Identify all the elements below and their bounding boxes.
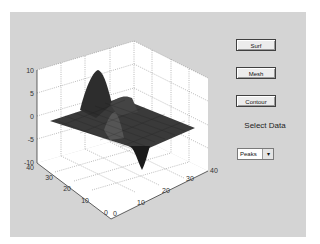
svg-text:0: 0 bbox=[30, 113, 34, 120]
svg-text:40: 40 bbox=[210, 167, 218, 174]
svg-text:40: 40 bbox=[26, 164, 34, 171]
surf-button[interactable]: Surf bbox=[236, 39, 276, 51]
svg-text:-5: -5 bbox=[28, 136, 34, 143]
select-data-label: Select Data bbox=[240, 121, 290, 130]
svg-text:10: 10 bbox=[81, 197, 89, 204]
chevron-down-icon[interactable]: ▾ bbox=[262, 149, 273, 159]
z-axis-ticks: 10 5 0 -5 -10 bbox=[24, 67, 34, 166]
svg-text:30: 30 bbox=[45, 174, 53, 181]
svg-text:10: 10 bbox=[137, 199, 145, 206]
svg-text:10: 10 bbox=[26, 67, 34, 74]
svg-text:0: 0 bbox=[104, 209, 108, 216]
svg-text:20: 20 bbox=[162, 187, 170, 194]
popup-selected-value: Peaks bbox=[240, 151, 257, 157]
contour-button[interactable]: Contour bbox=[236, 95, 276, 107]
svg-text:5: 5 bbox=[30, 90, 34, 97]
svg-text:0: 0 bbox=[113, 210, 117, 217]
svg-text:30: 30 bbox=[186, 175, 194, 182]
svg-text:20: 20 bbox=[63, 185, 71, 192]
data-select-popup[interactable]: Peaks ▾ bbox=[237, 148, 274, 160]
mesh-button[interactable]: Mesh bbox=[236, 67, 276, 79]
